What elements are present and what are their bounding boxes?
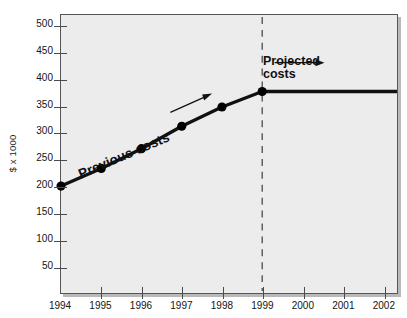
y-axis-tick-label: 250	[13, 152, 53, 163]
projected-costs-label: Projected costs	[263, 55, 320, 81]
data-point-marker	[217, 102, 226, 111]
x-axis-tick	[263, 287, 264, 299]
projected-costs-label-line2: costs	[263, 68, 320, 81]
x-axis-tick	[304, 287, 305, 299]
data-point-marker	[56, 182, 65, 191]
y-axis-tick	[54, 268, 67, 269]
y-axis-tick	[54, 26, 67, 27]
cost-projection-chart: $ x 1000	[0, 0, 407, 318]
y-axis-tick-label: 300	[13, 125, 53, 136]
data-point-marker	[258, 87, 267, 96]
previous-costs-arrow	[170, 93, 212, 112]
y-axis-tick-label: 450	[13, 45, 53, 56]
x-axis-tick	[385, 287, 386, 299]
y-axis-tick	[54, 241, 67, 242]
y-axis-tick	[54, 160, 67, 161]
x-axis-tick	[182, 287, 183, 299]
x-axis-tick	[223, 287, 224, 299]
y-axis-tick	[54, 214, 67, 215]
y-axis-tick-label: 500	[13, 18, 53, 29]
x-axis-tick	[142, 287, 143, 299]
y-axis-tick-label: 100	[13, 233, 53, 244]
plot-area: Previous costs Projected costs	[60, 14, 398, 294]
y-axis-tick-label: 50	[13, 260, 53, 271]
y-axis-tick	[54, 133, 67, 134]
x-axis-tick	[101, 287, 102, 299]
y-axis-tick	[54, 187, 67, 188]
y-axis-tick	[54, 80, 67, 81]
y-axis-tick-label: 400	[13, 72, 53, 83]
plot-inner: Previous costs Projected costs	[61, 15, 397, 293]
y-axis-tick-label: 150	[13, 206, 53, 217]
data-point-marker	[177, 122, 186, 131]
y-axis-tick-label: 200	[13, 179, 53, 190]
x-axis-tick-label: 2002	[360, 300, 407, 311]
x-axis-tick	[344, 287, 345, 299]
y-axis-tick-label: 350	[13, 99, 53, 110]
y-axis-tick	[54, 107, 67, 108]
projected-costs-label-line1: Projected	[263, 54, 320, 68]
y-axis-tick	[54, 53, 67, 54]
